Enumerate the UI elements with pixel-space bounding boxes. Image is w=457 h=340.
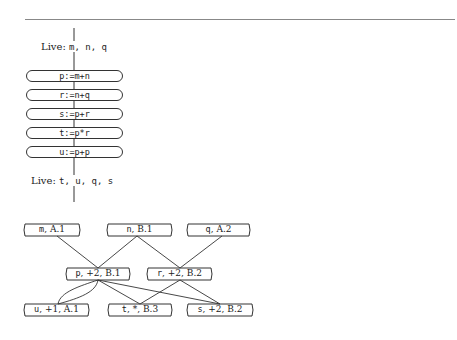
live-in-label: Live: m, n, q <box>40 41 108 52</box>
dag-node-q: q, A.2 <box>187 223 250 236</box>
dag-node-p: p, +2, B.1 <box>66 267 130 280</box>
node-info: , *, B.3 <box>127 304 158 314</box>
statement-t: t:=p*r <box>26 127 123 139</box>
statement-p: p:=m+n <box>26 70 123 82</box>
dag-node-m: m, A.1 <box>24 223 80 236</box>
node-info: , +2, B.1 <box>81 268 121 278</box>
dag-node-n: n, B.1 <box>107 223 172 236</box>
statement-s: s:=p+r <box>26 108 123 120</box>
live-keyword: Live: <box>41 41 66 52</box>
dag-node-r: r, +2, B.2 <box>147 267 212 280</box>
dag-node-u: u, +1, A.1 <box>24 303 89 316</box>
statement-r: r:=n+q <box>26 89 123 101</box>
dag-node-s: s, +2, B.2 <box>187 303 253 316</box>
node-info: , +2, B.2 <box>203 304 243 314</box>
node-info: , +2, B.2 <box>162 268 202 278</box>
live-vars: t, u, q, s <box>59 176 113 186</box>
live-vars: m, n, q <box>69 42 107 52</box>
node-info: , A.1 <box>44 224 65 234</box>
node-info: , A.2 <box>211 224 232 234</box>
live-out-label: Live: t, u, q, s <box>30 175 114 186</box>
live-keyword: Live: <box>31 175 56 186</box>
statement-u: u:=p+p <box>26 146 123 158</box>
node-info: , +1, A.1 <box>39 304 79 314</box>
dag-node-t: t, *, B.3 <box>108 303 172 316</box>
node-info: , B.1 <box>132 224 153 234</box>
